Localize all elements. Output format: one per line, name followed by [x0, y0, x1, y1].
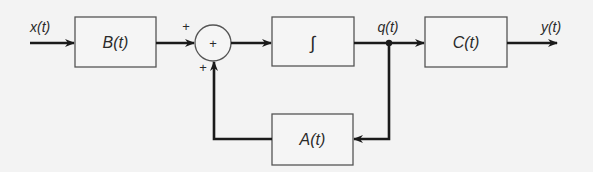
block-a-label: A(t): [299, 131, 326, 148]
integral-icon: ∫: [309, 33, 317, 53]
block-c: C(t): [425, 17, 507, 67]
block-diagram: x(t) B(t) + + + ∫ q(t) C(t) y(t): [0, 0, 593, 172]
sum-center-plus: +: [209, 36, 217, 51]
block-c-label: C(t): [453, 34, 480, 51]
a-to-sum-arrow: [214, 62, 272, 139]
input-signal-label: x(t): [29, 19, 50, 35]
sum-plus-sign-top: +: [182, 19, 190, 34]
block-a: A(t): [272, 114, 353, 165]
block-b-label: B(t): [103, 34, 129, 51]
feedback-to-a-arrow: [354, 43, 389, 139]
output-signal-label: y(t): [540, 19, 561, 35]
state-signal-label: q(t): [378, 19, 399, 35]
summing-junction: +: [195, 25, 231, 61]
block-b: B(t): [75, 17, 156, 67]
sum-plus-sign-bottom: +: [199, 60, 207, 75]
integrator-block: ∫: [272, 17, 354, 66]
